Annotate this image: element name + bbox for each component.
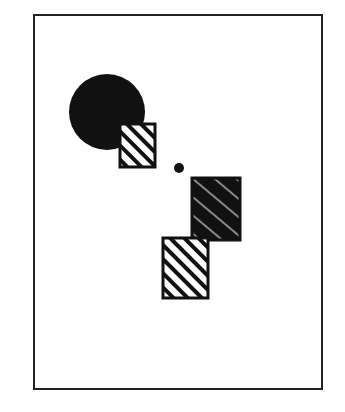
hatched-square-small: [120, 124, 155, 167]
abstract-composition: [0, 0, 345, 412]
dark-square: [192, 178, 240, 240]
small-dot: [174, 163, 184, 173]
hatched-square-large: [163, 238, 208, 298]
